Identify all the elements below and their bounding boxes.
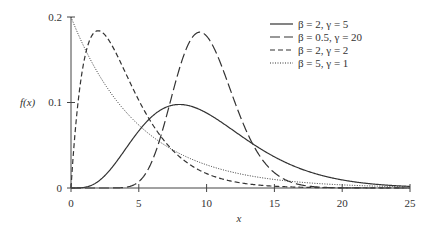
y-axis-label: f(x) bbox=[20, 96, 36, 109]
x-tick-label-15: 15 bbox=[269, 197, 281, 209]
x-tick-label-5: 5 bbox=[136, 197, 142, 209]
legend: β = 2, γ = 5 β = 0.5, γ = 20 β = 2, γ = … bbox=[270, 18, 363, 69]
curve-short-dash bbox=[71, 31, 410, 188]
y-tick-label-0.1: 0.1 bbox=[48, 96, 62, 108]
legend-label-2: β = 0.5, γ = 20 bbox=[298, 31, 363, 43]
x-axis-label: x bbox=[236, 212, 242, 224]
x-tick-label-10: 10 bbox=[201, 197, 213, 209]
gamma-pdf-chart: 0.2 0.1 0 f(x) 0 5 10 15 20 25 x β = 2, … bbox=[0, 0, 432, 234]
x-tick-label-25: 25 bbox=[405, 197, 417, 209]
y-tick-label-0.2: 0.2 bbox=[48, 11, 62, 23]
curve-long-dash bbox=[71, 32, 410, 188]
legend-label-1: β = 2, γ = 5 bbox=[298, 18, 349, 30]
legend-label-3: β = 2, γ = 2 bbox=[298, 44, 348, 56]
x-tick-label-20: 20 bbox=[337, 197, 349, 209]
x-tick-label-0: 0 bbox=[68, 197, 74, 209]
y-tick-label-0: 0 bbox=[57, 182, 63, 194]
legend-label-4: β = 5, γ = 1 bbox=[298, 57, 348, 69]
